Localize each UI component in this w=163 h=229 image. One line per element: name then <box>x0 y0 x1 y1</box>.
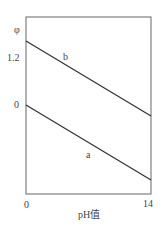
x-tick-0: 0 <box>24 199 29 210</box>
y-tick-1-2: 1.2 <box>7 52 20 63</box>
x-axis-label: pH值 <box>78 208 100 220</box>
line-a <box>26 105 151 180</box>
x-tick-14: 14 <box>143 198 153 209</box>
line-b-label: b <box>63 51 68 62</box>
chart: φ 1.2 0 b a 0 14 pH值 <box>0 0 163 229</box>
y-axis-label: φ <box>14 24 20 35</box>
line-b <box>26 41 151 116</box>
line-a-label: a <box>86 149 91 160</box>
y-tick-0: 0 <box>14 99 19 110</box>
